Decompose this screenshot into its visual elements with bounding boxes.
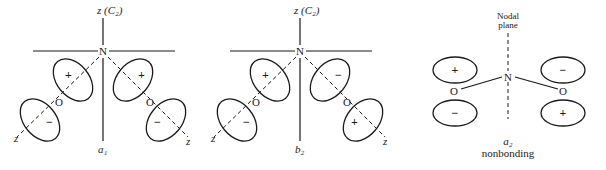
left-z-label: z: [210, 132, 216, 144]
right-z-label: z: [382, 135, 388, 147]
axis-label: z (C₂): [96, 4, 123, 17]
sign-upper-left: +: [262, 68, 269, 82]
sign-upper-right: +: [138, 68, 145, 82]
orbital-lobe-upper-left: [242, 51, 297, 108]
axis-label: z (C₂): [293, 4, 320, 17]
oxygen-atom-left: O: [450, 85, 458, 97]
symmetry-label: a₂: [503, 135, 513, 147]
sign-upper-left: +: [452, 63, 459, 77]
bond-right: [515, 77, 558, 89]
oxygen-atom-right: O: [559, 85, 567, 97]
sign-upper-right: −: [560, 63, 567, 77]
diagram-a2: Nodal plane N + − − + O O a₂ nonbonding: [433, 11, 585, 159]
sign-lower-right: −: [154, 115, 161, 129]
symmetry-label: a₁: [98, 143, 108, 155]
orbital-description: nonbonding: [482, 147, 535, 159]
oxygen-atom-right: O: [343, 96, 351, 108]
diagram-b2: z (C₂) N + − − + O O z z b₂: [209, 4, 390, 155]
oxygen-atom-left: O: [252, 96, 260, 108]
sign-lower-left: −: [243, 115, 250, 129]
sign-lower-left: −: [452, 106, 459, 120]
diagram-a1: z (C₂) N + − + − O O z z a₁: [12, 4, 193, 155]
nitrogen-atom: N: [296, 45, 304, 57]
sign-lower-left: −: [46, 115, 53, 129]
oxygen-atom-right: O: [146, 96, 154, 108]
sign-lower-right: +: [560, 106, 567, 120]
nitrogen-atom: N: [504, 71, 512, 83]
orbital-lobe-upper-left: [45, 51, 100, 108]
sign-upper-left: +: [65, 68, 72, 82]
no2-molecular-orbitals-figure: z (C₂) N + − + − O O z z a₁ z (C₂) N: [0, 0, 606, 170]
bond-left: [461, 77, 502, 89]
left-z-label: z: [13, 132, 19, 144]
sign-lower-right: +: [351, 115, 358, 129]
oxygen-atom-left: O: [55, 96, 63, 108]
right-z-label: z: [185, 135, 191, 147]
nodal-plane-label-line2: plane: [498, 20, 518, 30]
sign-upper-right: −: [335, 68, 342, 82]
symmetry-label: b₂: [295, 143, 305, 155]
nitrogen-atom: N: [99, 45, 107, 57]
